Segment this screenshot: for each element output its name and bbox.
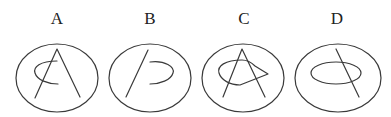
outer-ellipse-c	[202, 44, 284, 112]
label-a: A	[51, 9, 64, 28]
label-c: C	[238, 9, 249, 28]
figure-c[interactable]: C	[202, 9, 284, 112]
figure-b[interactable]: B	[109, 9, 191, 112]
a-shape-lines-c	[223, 49, 265, 97]
slanted-line-b	[126, 50, 148, 97]
figure-a[interactable]: A	[16, 9, 98, 112]
teardrop-shape-c	[219, 60, 268, 85]
outer-ellipse-b	[109, 44, 191, 112]
open-arc-b	[150, 62, 173, 84]
slanted-line-d	[336, 49, 359, 97]
figure-d[interactable]: D	[295, 9, 381, 112]
option-figures: A B C D	[0, 0, 391, 117]
label-d: D	[331, 9, 343, 28]
label-b: B	[144, 9, 155, 28]
inner-ellipse-d	[311, 62, 361, 84]
outer-ellipse-a	[16, 44, 98, 112]
a-shape-lines	[35, 49, 80, 98]
